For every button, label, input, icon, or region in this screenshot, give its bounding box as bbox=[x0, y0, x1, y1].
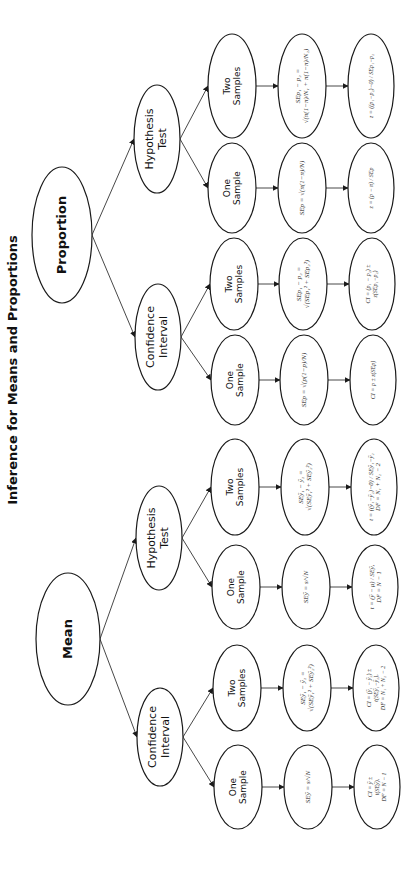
node-label-mean-ht-one: OneSample bbox=[226, 570, 247, 604]
node-label-line: Sample bbox=[232, 171, 242, 205]
edge-arrow-proportion-to-prop-ht bbox=[92, 139, 134, 235]
node-label-line: SEp = √(π(1−π)/N) bbox=[298, 161, 306, 216]
node-label-line: Confidence bbox=[145, 306, 158, 368]
node-label-mean-ci-two-se: SEȳ₁ − ȳ₂ =√(SEȳ₁² + SEȳ₂²) bbox=[299, 664, 315, 712]
node-label-mean: Mean bbox=[61, 619, 76, 659]
edge-arrow-mean-ci-to-mean-ci-two bbox=[183, 688, 213, 737]
node-label-line: √(SEȳ₁² + SEȳ₂²) bbox=[307, 664, 315, 712]
node-label-line: Hypothesis bbox=[146, 507, 159, 568]
node-label-mean-ht-two: TwoSamples bbox=[225, 468, 246, 506]
node-label-prop-ht-one-test: z = (p − π) / SEp bbox=[368, 168, 375, 209]
node-label-line: DF = N − 1 bbox=[375, 565, 382, 609]
node-label-line: One bbox=[226, 570, 236, 604]
node-label-mean-ci-two: TwoSamples bbox=[227, 669, 248, 707]
node-label-line: t(SEȳ₁−ȳ₂), bbox=[373, 666, 380, 710]
node-label-prop-ht-one: OneSample bbox=[222, 171, 243, 205]
node-label-mean-ci: ConfidenceInterval bbox=[147, 706, 172, 768]
node-label-line: CI = p ± z(SEp) bbox=[370, 361, 377, 399]
node-label-line: Test bbox=[159, 507, 172, 568]
node-label-mean-ci-one-test: CI = ȳ ±t(SEȳ),DF = N − 1 bbox=[367, 772, 388, 801]
node-label-line: z(SEp₁−p₂) bbox=[372, 264, 379, 303]
node-label-line: Mean bbox=[61, 619, 76, 659]
edge-arrow-mean-ht-to-mean-ht-one bbox=[182, 538, 212, 587]
node-label-line: One bbox=[222, 171, 232, 205]
node-label-line: SEȳ₁ − ȳ₂ = bbox=[299, 664, 307, 712]
node-label-line: SEp = √(p(1−p)/N) bbox=[300, 353, 308, 408]
node-label-line: CI = (p₁ − p₂) ± bbox=[365, 264, 372, 303]
node-label-prop-ci-one-test: CI = p ± z(SEp) bbox=[370, 361, 377, 399]
node-label-mean-ht-two-se: SEȳ₁ − ȳ₂ =√(SEȳ₁² + SEȳ₂²) bbox=[297, 463, 313, 511]
node-label-line: SEȳ = s/√N bbox=[302, 571, 310, 603]
node-label-line: t = (ȳ − μ) / SEȳ, bbox=[368, 565, 375, 609]
node-label-prop-ht-two-test: z = ((p₁−p₂)−0) / SEp₁−p₂ bbox=[368, 54, 375, 118]
node-label-prop-ci-two: TwoSamples bbox=[224, 265, 245, 303]
edge-arrow-prop-ci-to-prop-ci-two bbox=[181, 284, 210, 337]
node-label-line: One bbox=[228, 770, 238, 804]
node-label-line: Proportion bbox=[55, 196, 70, 274]
node-label-line: Two bbox=[224, 265, 234, 303]
node-label-line: Two bbox=[227, 669, 237, 707]
node-label-line: Hypothesis bbox=[144, 108, 157, 169]
node-label-mean-ci-one: OneSample bbox=[228, 770, 249, 804]
node-label-line: t = ((ȳ₁−ȳ₂)−0) / SEȳ₁−ȳ₂ bbox=[367, 453, 374, 520]
node-label-prop-ci-one: OneSample bbox=[225, 363, 246, 397]
node-label-line: √(SEp₁² + SEp₂²) bbox=[303, 260, 311, 308]
edge-arrow-mean-to-mean-ci bbox=[100, 639, 137, 737]
node-label-line: Interval bbox=[160, 706, 173, 768]
node-label-line: DF = N₁ + N₂ − 2 bbox=[374, 453, 381, 520]
node-label-line: Interval bbox=[158, 306, 171, 368]
node-label-line: t(SEȳ), bbox=[374, 772, 381, 801]
node-label-line: DF = N₁ + N₂ − 2 bbox=[379, 666, 386, 710]
node-label-line: SEp₁ − p₂ = bbox=[294, 49, 302, 124]
node-label-prop-ci-two-se: SEp₁ − p₂ =√(SEp₁² + SEp₂²) bbox=[295, 260, 311, 308]
node-label-line: Sample bbox=[238, 770, 248, 804]
node-label-line: SEȳ = s/√N bbox=[304, 771, 312, 803]
node-label-line: SEȳ₁ − ȳ₂ = bbox=[297, 463, 305, 511]
edge-arrow-prop-ht-to-prop-ht-two bbox=[180, 86, 208, 139]
node-label-prop-ht-two: TwoSamples bbox=[222, 67, 243, 105]
node-label-line: z = (p − π) / SEp bbox=[368, 168, 375, 209]
node-label-mean-ci-two-test: CI = (ȳ₁ − ȳ₂) ±t(SEȳ₁−ȳ₂),DF = N₁ + N₂ … bbox=[366, 666, 387, 710]
node-label-line: Samples bbox=[234, 265, 244, 303]
node-label-line: √(SEȳ₁² + SEȳ₂²) bbox=[305, 463, 313, 511]
node-label-line: CI = (ȳ₁ − ȳ₂) ± bbox=[366, 666, 373, 710]
edge-arrow-proportion-to-prop-ci bbox=[92, 235, 135, 337]
node-label-proportion: Proportion bbox=[55, 196, 70, 274]
edge-arrow-prop-ht-to-prop-ht-one bbox=[180, 139, 208, 188]
inference-tree-diagram bbox=[0, 0, 411, 871]
node-label-line: Two bbox=[222, 67, 232, 105]
node-label-line: √(π(1−π)/N₁ + π(1−π)/N₂) bbox=[302, 49, 310, 124]
nodes-layer bbox=[32, 34, 400, 829]
node-label-prop-ht-two-se: SEp₁ − p₂ =√(π(1−π)/N₁ + π(1−π)/N₂) bbox=[294, 49, 310, 124]
edge-arrow-mean-to-mean-ht bbox=[100, 538, 136, 639]
node-label-line: Two bbox=[225, 468, 235, 506]
node-label-line: Samples bbox=[232, 67, 242, 105]
node-label-line: One bbox=[225, 363, 235, 397]
edge-arrow-mean-ci-to-mean-ci-one bbox=[183, 737, 214, 787]
node-label-prop-ht-one-se: SEp = √(π(1−π)/N) bbox=[298, 161, 306, 216]
node-label-line: CI = ȳ ± bbox=[367, 772, 374, 801]
node-label-line: Samples bbox=[235, 468, 245, 506]
edge-arrow-prop-ci-to-prop-ci-one bbox=[181, 337, 211, 380]
node-label-line: Sample bbox=[235, 363, 245, 397]
node-label-prop-ci-two-test: CI = (p₁ − p₂) ±z(SEp₁−p₂) bbox=[365, 264, 379, 303]
edge-arrow-mean-ht-to-mean-ht-two bbox=[182, 487, 211, 538]
node-label-line: z = ((p₁−p₂)−0) / SEp₁−p₂ bbox=[368, 54, 375, 118]
node-label-prop-ht: HypothesisTest bbox=[144, 108, 169, 169]
node-label-line: Confidence bbox=[147, 706, 160, 768]
node-label-mean-ht: HypothesisTest bbox=[146, 507, 171, 568]
node-label-line: Test bbox=[157, 108, 170, 169]
node-label-prop-ci: ConfidenceInterval bbox=[145, 306, 170, 368]
node-label-line: SEp₁ − p₂ = bbox=[295, 260, 303, 308]
node-label-mean-ht-one-se: SEȳ = s/√N bbox=[302, 571, 310, 603]
node-label-mean-ci-one-se: SEȳ = s/√N bbox=[304, 771, 312, 803]
node-label-mean-ht-one-test: t = (ȳ − μ) / SEȳ,DF = N − 1 bbox=[368, 565, 383, 609]
node-label-prop-ci-one-se: SEp = √(p(1−p)/N) bbox=[300, 353, 308, 408]
node-label-line: Samples bbox=[237, 669, 247, 707]
node-label-line: Sample bbox=[236, 570, 246, 604]
node-label-line: DF = N − 1 bbox=[380, 772, 387, 801]
node-label-mean-ht-two-test: t = ((ȳ₁−ȳ₂)−0) / SEȳ₁−ȳ₂DF = N₁ + N₂ − … bbox=[367, 453, 382, 520]
